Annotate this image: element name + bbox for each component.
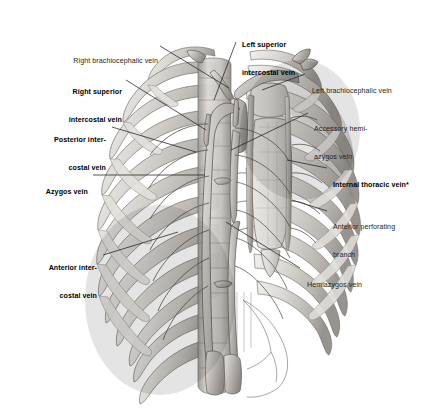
label-line: Anterior inter- bbox=[6, 264, 97, 273]
label-line: branch bbox=[333, 251, 437, 260]
label-line: Right superior bbox=[6, 88, 122, 97]
label-azygos-vein: Azygos vein bbox=[6, 170, 88, 216]
label-line: Hemiazygos vein bbox=[307, 281, 417, 290]
label-line: costal vein bbox=[6, 292, 97, 301]
label-line: Internal thoracic vein* bbox=[333, 181, 437, 190]
label-anterior-intercostal-vein: Anterior inter- costal vein bbox=[6, 246, 97, 320]
label-hemiazygos-vein: Hemiazygos vein bbox=[307, 263, 417, 309]
label-internal-thoracic-vein: Internal thoracic vein* bbox=[333, 163, 437, 209]
label-line: Azygos vein bbox=[6, 188, 88, 197]
label-line: Left superior bbox=[242, 41, 352, 50]
label-line: Left brachiocephalic vein bbox=[312, 87, 436, 96]
anatomical-figure: Right brachiocephalic vein Right superio… bbox=[0, 0, 438, 408]
label-line: Anterior perforating bbox=[333, 223, 437, 232]
label-line: azygos vein bbox=[314, 153, 434, 162]
label-line: Right brachiocephalic vein bbox=[6, 57, 158, 66]
label-line: Accessory hemi- bbox=[314, 125, 434, 134]
label-line: Posterior inter- bbox=[6, 136, 106, 145]
